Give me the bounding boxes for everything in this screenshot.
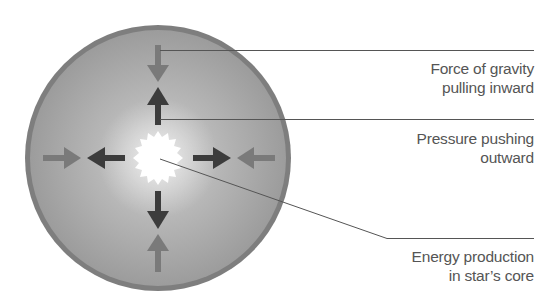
label-pressure: Pressure pushing outward xyxy=(417,129,534,167)
label-gravity: Force of gravity pulling inward xyxy=(430,59,534,97)
core-starburst-icon xyxy=(133,131,183,185)
label-core: Energy production in star’s core xyxy=(412,247,534,285)
